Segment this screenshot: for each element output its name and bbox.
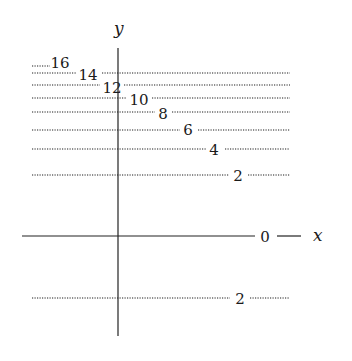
contour-label: 10 [129,91,148,109]
contour-label: 14 [78,66,97,84]
y-axis-label: y [113,18,124,38]
contour-label: 16 [50,54,69,72]
contour-label: 2 [235,290,245,308]
contour-diagram: 16141210864202 y x [0,0,352,361]
x-axis-label: x [313,225,323,245]
contour-label: 0 [260,228,270,246]
contour-label: 4 [209,141,219,159]
contour-label: 8 [158,105,168,123]
contour-levels: 16141210864202 [32,54,290,308]
contour-label: 6 [183,121,193,139]
contour-label: 12 [102,79,121,97]
contour-label: 2 [233,167,243,185]
